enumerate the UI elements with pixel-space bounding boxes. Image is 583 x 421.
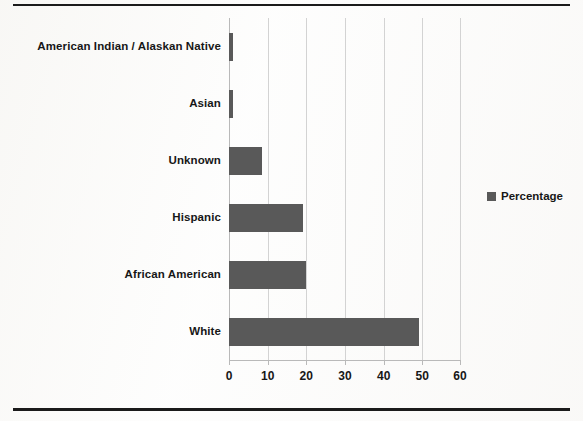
value-axis: 0 10 20 30 40 50 60: [229, 360, 461, 394]
bar-hispanic[interactable]: [229, 204, 303, 232]
tick-mark-30: [345, 360, 346, 365]
bar-asian[interactable]: [229, 90, 233, 118]
bar-african-american[interactable]: [229, 261, 306, 289]
legend-swatch-icon: [487, 192, 496, 201]
category-label-unknown: Unknown: [0, 132, 221, 189]
legend-label-percentage: Percentage: [501, 190, 563, 202]
tick-mark-20: [306, 360, 307, 365]
tick-label-40: 40: [364, 369, 404, 383]
tick-label-20: 20: [286, 369, 326, 383]
bar-unknown[interactable]: [229, 147, 262, 175]
category-axis-labels: American Indian / Alaskan Native Asian U…: [0, 18, 221, 360]
tick-mark-40: [384, 360, 385, 365]
bar-chart: American Indian / Alaskan Native Asian U…: [0, 0, 583, 421]
tick-label-0: 0: [209, 369, 249, 383]
tick-mark-10: [268, 360, 269, 365]
category-label-asian: Asian: [0, 75, 221, 132]
bar-row-african-american: [229, 246, 461, 303]
category-label-white: White: [0, 303, 221, 360]
tick-label-10: 10: [248, 369, 288, 383]
chart-legend: Percentage: [487, 190, 563, 202]
tick-label-50: 50: [402, 369, 442, 383]
category-label-african-american: African American: [0, 246, 221, 303]
category-label-american-indian-alaskan-native: American Indian / Alaskan Native: [0, 18, 221, 75]
bar-row-asian: [229, 75, 461, 132]
tick-mark-60: [460, 360, 461, 365]
bar-row-hispanic: [229, 189, 461, 246]
tick-label-30: 30: [325, 369, 365, 383]
tick-mark-0: [229, 360, 230, 365]
bar-row-white: [229, 303, 461, 360]
bar-row-unknown: [229, 132, 461, 189]
plot-area: [229, 18, 461, 360]
tick-label-60: 60: [440, 369, 480, 383]
bar-row-american-indian-alaskan-native: [229, 18, 461, 75]
bar-white[interactable]: [229, 318, 419, 346]
category-label-hispanic: Hispanic: [0, 189, 221, 246]
tick-mark-50: [422, 360, 423, 365]
bar-american-indian-alaskan-native[interactable]: [229, 33, 233, 61]
